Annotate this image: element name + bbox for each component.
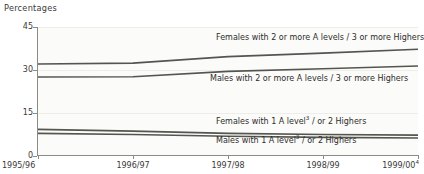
series-label-males-1-suffix: / or 2 Highers: [299, 136, 356, 145]
series-label-females-1: Females with 1 A level3 / or 2 Highers: [216, 117, 366, 126]
series-label-males-1: Males with 1 A level3 / or 2 Highers: [216, 136, 356, 145]
series-label-males-1-prefix: Males with 1 A level: [216, 136, 296, 145]
series-label-males-2plus: Males with 2 or more A levels / 3 or mor…: [210, 74, 408, 83]
series-label-females-1-suffix: / or 2 Highers: [309, 117, 366, 126]
series-label-females-2plus: Females with 2 or more A levels / 3 or m…: [216, 33, 424, 42]
series-label-females-1-prefix: Females with 1 A level: [216, 117, 306, 126]
series-line-females-2plus: [38, 49, 418, 64]
